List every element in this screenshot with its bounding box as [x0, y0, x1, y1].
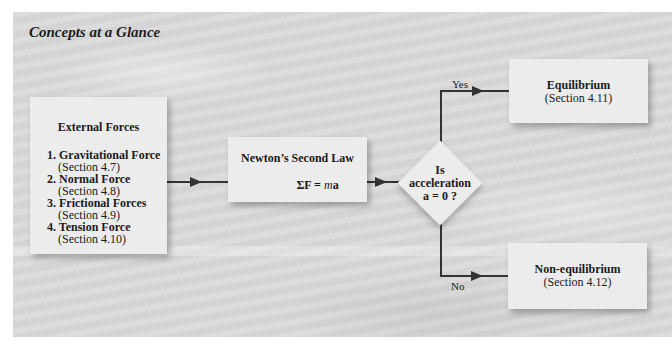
force-list: 1. Gravitational Force (Section 4.7) 2. …	[30, 149, 167, 245]
diagram-title: Concepts at a Glance	[29, 24, 160, 41]
equilibrium-box: Equilibrium (Section 4.11)	[509, 59, 648, 123]
decision-line: a = 0 ?	[398, 190, 482, 203]
decision-text: Is acceleration a = 0 ?	[398, 164, 482, 203]
newton-title: Newton’s Second Law	[228, 151, 367, 166]
external-forces-title: External Forces	[30, 120, 167, 135]
decision-diamond: Is acceleration a = 0 ?	[398, 141, 482, 225]
yes-label: Yes	[452, 78, 468, 90]
non-equilibrium-section: (Section 4.12)	[508, 276, 647, 289]
newtons-second-law-box: Newton’s Second Law ΣF = ma	[228, 137, 367, 202]
force-item-section: (Section 4.10)	[47, 233, 167, 245]
no-label: No	[451, 280, 464, 292]
equation-left: ΣF =	[296, 178, 324, 192]
external-forces-box: External Forces 1. Gravitational Force (…	[30, 97, 167, 254]
equation-acceleration: a	[333, 178, 339, 192]
newton-equation: ΣF = ma	[228, 178, 367, 193]
non-equilibrium-box: Non-equilibrium (Section 4.12)	[508, 243, 647, 309]
equilibrium-section: (Section 4.11)	[509, 92, 648, 105]
equation-mass: m	[324, 178, 333, 192]
